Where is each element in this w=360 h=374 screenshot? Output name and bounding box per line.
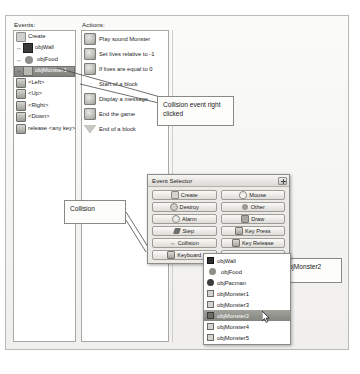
action-row[interactable]: End of a block <box>82 121 168 136</box>
events-list[interactable]: Create↔objWall↔objFood↔objMonster1<Left>… <box>13 30 76 342</box>
event-row[interactable]: <Down> <box>14 112 75 124</box>
key-icon <box>16 124 26 134</box>
object-list-item-label: objMonster1 <box>217 291 249 297</box>
action-row[interactable]: If lives are equal to 0 <box>82 61 168 76</box>
action-row-label: End the game <box>99 111 135 117</box>
event-row-label: <Left> <box>28 80 44 86</box>
event-row[interactable]: Create <box>14 31 75 43</box>
event-row[interactable]: <Up> <box>14 89 75 101</box>
object-list-item[interactable]: objFood <box>204 266 290 277</box>
event-row[interactable]: release <any key> <box>14 123 75 135</box>
event-type-button-label: Key Release <box>242 240 274 246</box>
key-icon <box>16 101 26 111</box>
object-list-item-label: objPacman <box>217 280 246 286</box>
event-type-button[interactable]: Key Press <box>221 226 286 236</box>
action-row[interactable]: Start of a block <box>82 76 168 91</box>
callout-collision: Collision <box>64 200 126 224</box>
event-type-button[interactable]: Create <box>152 190 217 200</box>
event-row-label: objMonster1 <box>35 68 67 74</box>
event-row-label: objFood <box>37 57 58 63</box>
event-type-button-label: Other <box>251 204 265 210</box>
action-row-label: End of a block <box>99 126 136 132</box>
callout-collision-event-text: Collision event right clicked <box>163 101 228 119</box>
event-selector-titlebar[interactable]: Event Selector <box>148 175 289 187</box>
action-row-label: Start of a block <box>99 81 138 87</box>
object-list-item[interactable]: objPacman <box>204 277 290 288</box>
event-row[interactable]: ↔objWall <box>14 43 75 55</box>
actions-header: Actions: <box>82 21 105 28</box>
close-icon[interactable] <box>278 177 287 185</box>
object-list-item-label: objMonster3 <box>217 302 249 308</box>
object-list-item[interactable]: objMonster2 <box>204 310 290 321</box>
event-type-button[interactable]: Key Release <box>221 238 286 248</box>
action-row-label: Play sound Monster <box>99 36 150 42</box>
keyboard-icon <box>167 251 175 259</box>
wall-icon <box>23 43 33 53</box>
object-list-item[interactable]: objMonster5 <box>204 332 290 343</box>
object-list-item-label: objMonster4 <box>217 324 249 330</box>
event-selector-dialog[interactable]: Event Selector CreateMouseDestroyOtherAl… <box>147 174 290 264</box>
event-selector-title: Event Selector <box>152 177 278 184</box>
event-row-label: <Right> <box>28 103 48 109</box>
event-row[interactable]: <Left> <box>14 77 75 89</box>
object-list-item-label: objMonster5 <box>217 335 249 341</box>
keyrelease-icon <box>232 239 240 247</box>
event-row[interactable]: <Right> <box>14 100 75 112</box>
action-row[interactable]: Play sound Monster <box>82 31 168 46</box>
event-type-button-label: Draw <box>251 216 264 222</box>
create-icon <box>171 191 179 199</box>
event-type-button[interactable]: Mouse <box>221 190 286 200</box>
destroy-icon <box>170 203 178 211</box>
object-list-item[interactable]: objMonster3 <box>204 299 290 310</box>
question-action-icon <box>84 63 96 75</box>
food-icon <box>25 56 33 64</box>
lives-action-icon <box>84 48 96 60</box>
wall-icon <box>207 257 214 264</box>
action-row[interactable]: Set lives relative to -1 <box>82 46 168 61</box>
action-row[interactable]: End the game <box>82 106 168 121</box>
sound-action-icon <box>84 33 96 45</box>
action-row-label: Set lives relative to -1 <box>99 51 154 57</box>
monster-icon <box>207 290 214 297</box>
pacman-icon <box>207 279 214 286</box>
alarm-icon <box>172 215 180 223</box>
monster-icon <box>207 334 214 341</box>
block-end-icon <box>84 123 96 135</box>
object-list-item-label: objWall <box>217 258 236 264</box>
step-icon <box>174 228 182 234</box>
event-type-button[interactable]: Other <box>221 202 286 212</box>
keypress-icon <box>235 227 243 235</box>
event-row[interactable]: ↔objFood <box>14 54 75 66</box>
event-row[interactable]: ↔objMonster1 <box>14 66 75 78</box>
event-type-button-grid[interactable]: CreateMouseDestroyOtherAlarmDrawStepKey … <box>148 187 289 263</box>
event-type-button[interactable]: Destroy <box>152 202 217 212</box>
event-type-button[interactable]: Alarm <box>152 214 217 224</box>
food-icon <box>209 268 216 275</box>
event-type-button[interactable]: Draw <box>221 214 286 224</box>
event-type-button[interactable]: ↔Collision <box>152 238 217 248</box>
event-type-button-label: Alarm <box>182 216 197 222</box>
endgame-action-icon <box>84 108 96 120</box>
object-list-item[interactable]: objMonster1 <box>204 288 290 299</box>
key-icon <box>16 78 26 88</box>
event-type-button-label: Mouse <box>249 192 266 198</box>
event-row-label: <Down> <box>28 114 50 120</box>
collision-icon: ↔ <box>170 240 176 246</box>
event-type-button-label: Key Press <box>245 228 271 234</box>
event-type-button[interactable]: Step <box>152 226 217 236</box>
object-list-item[interactable]: objMonster4 <box>204 321 290 332</box>
callout-collision-event: Collision event right clicked <box>157 96 234 126</box>
event-type-button-label: Collision <box>178 240 199 246</box>
object-dropdown-list[interactable]: objWallobjFoodobjPacmanobjMonster1objMon… <box>203 253 291 345</box>
event-row-label: objWall <box>35 45 54 51</box>
event-type-button-label: Create <box>181 192 198 198</box>
event-row-label: release <any key> <box>28 126 75 132</box>
event-type-button-label: Destroy <box>180 204 199 210</box>
collision-arrows-icon: ↔ <box>16 68 21 74</box>
create-icon <box>16 32 26 42</box>
mouse-cursor-icon <box>262 311 270 323</box>
object-list-item-label: objMonster2 <box>217 313 249 319</box>
object-list-item[interactable]: objWall <box>204 255 290 266</box>
draw-icon <box>241 215 249 223</box>
action-row[interactable]: Display a message <box>82 91 168 106</box>
